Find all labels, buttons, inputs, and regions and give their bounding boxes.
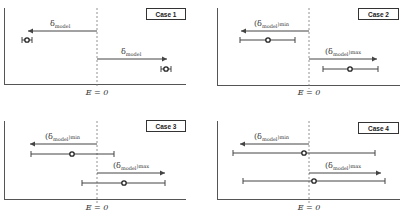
errorbar-max — [243, 178, 385, 184]
case-label: Case 4 — [368, 125, 389, 132]
panel-case-3: Case 3 (δmodel)min (δmodel)max E = 0 — [4, 121, 186, 213]
panel-case-4: Case 4 (δmodel)min (δmodel)max E = 0 — [217, 121, 400, 212]
case-label-box: Case 2 — [359, 9, 399, 20]
data-point — [348, 67, 352, 71]
data-point — [122, 181, 126, 185]
data-point — [25, 38, 29, 42]
axis-label-e-zero: E = 0 — [297, 203, 321, 212]
data-point — [164, 67, 168, 71]
delta-model-max-label: (δmodel)max — [325, 161, 361, 171]
axis-label-e-zero: E = 0 — [85, 88, 109, 97]
data-point — [302, 151, 306, 155]
errorbar-left — [22, 37, 32, 43]
errorbar-min — [240, 37, 295, 43]
delta-model-label-right: δmodel — [121, 47, 142, 57]
data-point — [70, 152, 74, 156]
delta-model-min-label: (δmodel)min — [254, 132, 290, 142]
errorbar-max — [323, 66, 378, 72]
errorbar-max — [82, 180, 165, 186]
case-label-box: Case 1 — [147, 9, 186, 20]
delta-model-label-left: δmodel — [50, 19, 71, 29]
case-label: Case 2 — [368, 11, 389, 18]
delta-model-max-label: (δmodel)max — [113, 161, 149, 171]
axis-label-e-zero: E = 0 — [85, 203, 109, 212]
case-label-box: Case 3 — [147, 121, 186, 132]
delta-model-min-label: (δmodel)min — [254, 19, 290, 29]
delta-model-max-label: (δmodel)max — [325, 47, 361, 57]
errorbar-min — [31, 151, 114, 157]
data-point — [312, 179, 316, 183]
four-case-diagram: Case 1 δmodel δmodel E = 0 Case 2 — [0, 0, 404, 214]
data-point — [266, 38, 270, 42]
panel-case-1: Case 1 δmodel δmodel E = 0 — [4, 8, 186, 97]
errorbar-min — [233, 150, 375, 156]
panel-case-2: Case 2 (δmodel)min (δmodel)max E = 0 — [217, 8, 400, 97]
errorbar-right — [161, 66, 171, 72]
delta-model-min-label: (δmodel)min — [45, 132, 81, 142]
case-label-box: Case 4 — [359, 123, 399, 134]
case-label: Case 3 — [156, 123, 177, 130]
case-label: Case 1 — [156, 11, 177, 18]
axis-label-e-zero: E = 0 — [297, 88, 321, 97]
